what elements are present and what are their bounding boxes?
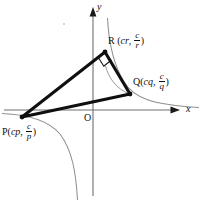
point-label-r-denominator: r (134, 41, 140, 50)
triangle-pqr (22, 52, 130, 117)
point-label-q: Q(cq, cq) (133, 72, 169, 91)
point-label-p: P(cp, cp) (2, 122, 36, 141)
x-axis-label: x (186, 104, 190, 114)
y-axis-label: y (97, 2, 101, 12)
vertex-dot-p (20, 115, 25, 120)
vertex-dot-r (103, 50, 108, 55)
point-label-r-name: R (108, 35, 115, 46)
point-label-q-denominator: q (159, 82, 166, 91)
point-label-p-fraction: cp (26, 122, 33, 141)
point-label-r-fraction: cr (134, 31, 140, 50)
vertex-dot-q (128, 92, 133, 97)
point-label-p-denominator: p (26, 132, 33, 141)
point-label-r: R (cr, cr) (108, 31, 144, 50)
point-label-q-fraction: cq (159, 72, 166, 91)
point-label-p-x: cp (11, 126, 20, 137)
hyperbola-triangle-figure: y x O P(cp, cp) Q(cq, cq) R (cr, cr) (0, 0, 201, 202)
point-label-r-x: cr (121, 35, 129, 46)
origin-label: O (84, 113, 91, 123)
speck-artifact (63, 23, 65, 25)
diagram-canvas (0, 0, 201, 202)
point-label-q-x: cq (144, 76, 153, 87)
